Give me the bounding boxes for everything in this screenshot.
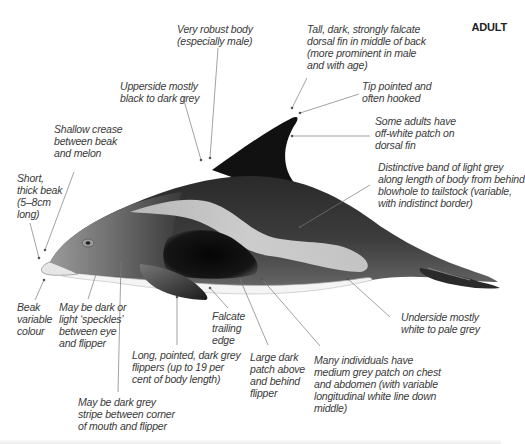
label-tip: Tip pointed and often hooked bbox=[362, 80, 431, 104]
label-beak-colour: Beak variable colour bbox=[17, 301, 52, 337]
bottom-divider bbox=[0, 440, 501, 444]
label-off-white-patch: Some adults have off-white patch on dors… bbox=[375, 115, 456, 151]
label-beak: Short, thick beak (5–8cm long) bbox=[17, 172, 62, 220]
label-stripe: May be dark grey stripe between corner o… bbox=[78, 396, 175, 432]
label-falcate-edge: Falcate trailing edge bbox=[212, 310, 245, 346]
diagram-title: ADULT bbox=[472, 21, 507, 33]
label-dark-patch: Large dark patch above and behind flippe… bbox=[250, 351, 305, 399]
label-underside: Underside mostly white to pale grey bbox=[401, 311, 480, 335]
label-crease: Shallow crease between beak and melon bbox=[54, 123, 122, 159]
label-speckles: May be dark or light ‘speckles’ between … bbox=[59, 301, 126, 349]
label-robust-body: Very robust body (especially male) bbox=[177, 23, 253, 47]
label-upperside: Upperside mostly black to dark grey bbox=[120, 80, 199, 104]
label-light-band: Distinctive band of light grey along len… bbox=[378, 161, 525, 209]
label-grey-patch: Many individuals have medium grey patch … bbox=[314, 354, 441, 414]
label-flippers: Long, pointed, dark grey flippers (up to… bbox=[132, 349, 240, 385]
label-dorsal-fin: Tall, dark, strongly falcate dorsal fin … bbox=[307, 23, 426, 71]
